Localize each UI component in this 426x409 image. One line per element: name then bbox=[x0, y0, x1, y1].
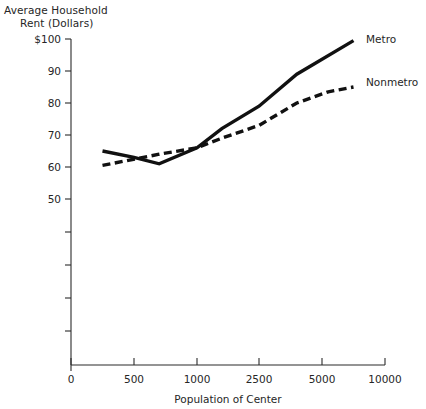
x-tick-label-5000: 5000 bbox=[309, 373, 336, 385]
y-tick-label-60: 60 bbox=[48, 161, 61, 173]
x-tick-label-2500: 2500 bbox=[246, 373, 273, 385]
y-tick-label-100: $100 bbox=[34, 33, 61, 45]
y-axis-ticks bbox=[65, 39, 71, 331]
y-tick-label-70: 70 bbox=[48, 129, 61, 141]
x-axis-title: Population of Center bbox=[174, 393, 282, 405]
x-tick-label-500: 500 bbox=[124, 373, 144, 385]
series-group bbox=[103, 41, 354, 166]
x-tick-label-0: 0 bbox=[68, 373, 75, 385]
series-label-nonmetro: Nonmetro bbox=[366, 76, 418, 88]
y-tick-label-80: 80 bbox=[48, 97, 61, 109]
y-tick-label-50: 50 bbox=[48, 193, 61, 205]
line-chart: $100 90 80 70 60 50 0 500 1000 2500 5000… bbox=[0, 0, 426, 409]
x-tick-label-10000: 10000 bbox=[368, 373, 401, 385]
x-tick-label-1000: 1000 bbox=[184, 373, 211, 385]
y-tick-label-90: 90 bbox=[48, 65, 61, 77]
series-line-metro bbox=[103, 41, 354, 164]
x-axis: 0 500 1000 2500 5000 10000 Population of… bbox=[68, 358, 402, 405]
series-label-metro: Metro bbox=[366, 33, 396, 45]
y-axis: $100 90 80 70 60 50 bbox=[34, 33, 71, 365]
chart-page: Average Household Rent (Dollars) $100 90… bbox=[0, 0, 426, 409]
